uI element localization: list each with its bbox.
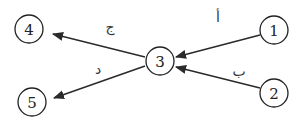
node-2: 2	[260, 79, 288, 107]
node-label-4: 4	[24, 21, 34, 39]
edge-label-3-4: ج	[105, 19, 115, 36]
node-label-3: 3	[155, 53, 165, 71]
node-label-2: 2	[269, 85, 279, 103]
graph-diagram: أ ب ج د 1 2 3 4 5	[0, 0, 304, 123]
edge-label-1-3: أ	[216, 8, 220, 25]
edge-2-to-3	[176, 67, 260, 88]
node-label-1: 1	[269, 22, 279, 40]
edge-label-2-3: ب	[232, 63, 245, 79]
edge-label-3-5: د	[95, 61, 101, 77]
node-5: 5	[18, 88, 46, 116]
node-1: 1	[260, 16, 288, 44]
edge-1-to-3	[176, 35, 260, 57]
node-label-5: 5	[27, 94, 37, 112]
node-4: 4	[15, 15, 43, 43]
node-3: 3	[146, 47, 174, 75]
edge-3-to-4	[53, 34, 145, 57]
